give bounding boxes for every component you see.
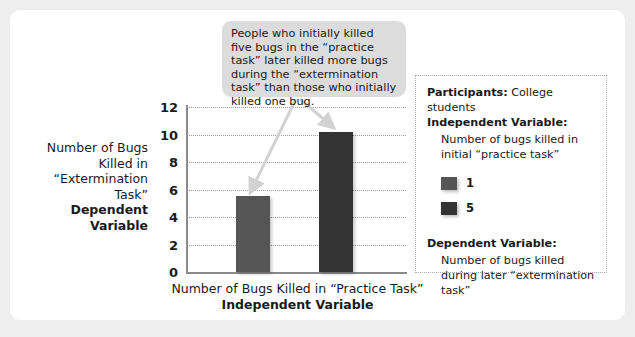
- legend-item-5: 5: [441, 201, 596, 216]
- info-panel: Participants: College students Independe…: [415, 75, 607, 273]
- x-axis-title-main: Number of Bugs Killed in “Practice Task”: [171, 281, 423, 296]
- y-tick-label: 12: [138, 101, 178, 114]
- x-axis-title-sub: Independent Variable: [222, 297, 374, 312]
- gridline: [186, 162, 406, 163]
- figure-root: Number of Bugs Killed in “Extermination …: [0, 0, 635, 337]
- legend-swatch: [441, 202, 457, 215]
- legend-item-1: 1: [441, 176, 596, 191]
- dependent-variable-label: Dependent Variable:: [427, 236, 596, 251]
- y-tick-label: 8: [138, 156, 178, 169]
- y-tick-label: 10: [138, 129, 178, 142]
- participants-label: Participants:: [427, 86, 508, 99]
- y-axis-title-sub: Dependent Variable: [71, 202, 148, 233]
- legend-label: 1: [466, 176, 474, 191]
- y-axis-title-main: Number of Bugs Killed in “Extermination …: [47, 140, 148, 202]
- y-tick-label: 4: [138, 211, 178, 224]
- y-tick-label: 2: [138, 239, 178, 252]
- gridline: [186, 245, 406, 246]
- callout-annotation: People who initially killed five bugs in…: [222, 21, 406, 97]
- bar-1: [236, 196, 270, 272]
- legend: 15: [427, 176, 596, 226]
- legend-swatch: [441, 177, 457, 190]
- x-axis-line: [186, 272, 407, 274]
- y-tick-label: 6: [138, 184, 178, 197]
- y-tick-label: 0: [138, 266, 178, 279]
- independent-variable-text: Number of bugs killed in initial “practi…: [441, 132, 596, 162]
- x-axis-title: Number of Bugs Killed in “Practice Task”…: [110, 281, 485, 313]
- y-axis-title: Number of Bugs Killed in “Extermination …: [36, 140, 148, 233]
- gridline: [186, 217, 406, 218]
- dependent-variable-text: Number of bugs killed during later “exte…: [441, 253, 596, 298]
- plot-area: [186, 107, 406, 272]
- legend-label: 5: [466, 201, 474, 216]
- bar-5: [319, 132, 353, 272]
- independent-variable-label: Independent Variable:: [427, 115, 596, 130]
- participants-row: Participants: College students: [427, 85, 596, 115]
- gridline: [186, 190, 406, 191]
- gridline: [186, 135, 406, 136]
